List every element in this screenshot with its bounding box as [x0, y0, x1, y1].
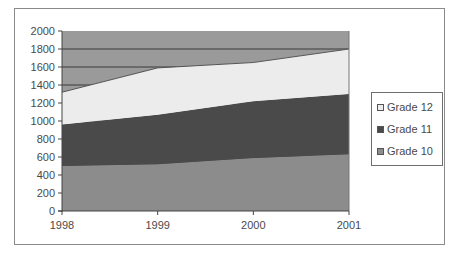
legend: Grade 12 Grade 11 Grade 10	[371, 92, 443, 166]
y-tick-label: 1800	[31, 43, 55, 55]
legend-swatch-grade-11	[377, 126, 384, 133]
y-tick-label: 400	[37, 169, 55, 181]
legend-swatch-grade-10	[377, 148, 384, 155]
legend-item-grade-10: Grade 10	[377, 140, 442, 162]
y-tick-label: 1000	[31, 115, 55, 127]
y-axis: 0200400600800100012001400160018002000	[31, 25, 62, 217]
legend-label: Grade 11	[387, 123, 432, 135]
legend-item-grade-12: Grade 12	[377, 96, 442, 118]
y-tick-label: 0	[49, 205, 55, 217]
y-tick-label: 800	[37, 133, 55, 145]
y-tick-label: 1400	[31, 79, 55, 91]
legend-item-grade-11: Grade 11	[377, 118, 442, 140]
y-tick-label: 600	[37, 151, 55, 163]
y-tick-label: 2000	[31, 25, 55, 37]
x-axis: 1998199920002001	[50, 211, 361, 231]
x-tick-label: 2000	[241, 219, 265, 231]
legend-label: Grade 10	[387, 145, 433, 157]
x-tick-label: 1998	[50, 219, 74, 231]
y-tick-label: 200	[37, 187, 55, 199]
legend-label: Grade 12	[387, 101, 433, 113]
y-tick-label: 1200	[31, 97, 55, 109]
plot-area	[62, 31, 349, 211]
legend-swatch-grade-12	[377, 104, 384, 111]
x-tick-label: 1999	[145, 219, 169, 231]
y-tick-label: 1600	[31, 61, 55, 73]
x-tick-label: 2001	[337, 219, 361, 231]
